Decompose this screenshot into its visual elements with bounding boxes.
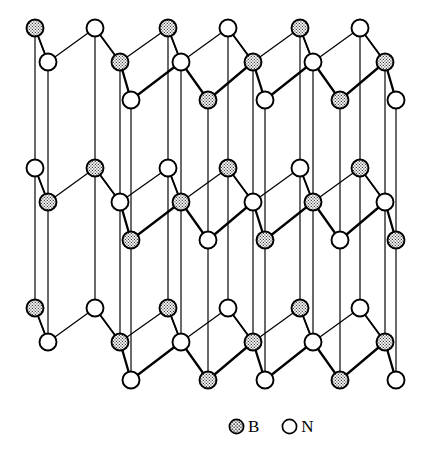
nitrogen-atom xyxy=(112,194,129,211)
legend: B N xyxy=(228,418,314,435)
nitrogen-atom xyxy=(27,160,44,177)
boron-atom xyxy=(27,300,44,317)
boron-atom xyxy=(87,160,104,177)
legend-entry-boron: B xyxy=(228,418,259,435)
boron-atom xyxy=(173,194,190,211)
boron-atom xyxy=(40,194,57,211)
boron-atom xyxy=(352,160,369,177)
boron-atom xyxy=(27,20,44,37)
boron-atom xyxy=(388,232,405,249)
boron-atom xyxy=(292,300,309,317)
crystal-structure-diagram xyxy=(0,0,426,455)
boron-atom xyxy=(377,334,394,351)
boron-atom xyxy=(292,20,309,37)
boron-atom xyxy=(332,92,349,109)
legend-entry-nitrogen: N xyxy=(281,418,313,435)
boron-atom xyxy=(160,300,177,317)
nitrogen-atom xyxy=(352,20,369,37)
nitrogen-atom xyxy=(123,92,140,109)
lattice-group xyxy=(27,20,405,389)
nitrogen-atom xyxy=(173,334,190,351)
layer-top-layer xyxy=(27,20,405,109)
nitrogen-atom xyxy=(292,160,309,177)
nitrogen-atom xyxy=(200,232,217,249)
boron-atom xyxy=(200,372,217,389)
nitrogen-atom xyxy=(220,20,237,37)
nitrogen-atom xyxy=(257,92,274,109)
nitrogen-atom xyxy=(305,54,322,71)
boron-atom xyxy=(112,334,129,351)
figure-root: B N xyxy=(0,0,426,455)
nitrogen-atom xyxy=(257,372,274,389)
boron-atom xyxy=(220,160,237,177)
boron-atom xyxy=(160,20,177,37)
nitrogen-atom xyxy=(160,160,177,177)
vertical-bonds-group xyxy=(35,28,396,380)
nitrogen-atom xyxy=(388,372,405,389)
boron-atom-icon xyxy=(228,418,245,435)
boron-atom xyxy=(257,232,274,249)
nitrogen-atom xyxy=(40,54,57,71)
layer-bottom-layer xyxy=(27,300,405,389)
legend-label-nitrogen: N xyxy=(301,418,313,435)
boron-atom xyxy=(332,372,349,389)
boron-atom xyxy=(123,232,140,249)
boron-atom xyxy=(245,54,262,71)
nitrogen-atom xyxy=(123,372,140,389)
boron-atom xyxy=(200,92,217,109)
layer-middle-layer xyxy=(27,160,405,249)
nitrogen-atom xyxy=(388,92,405,109)
nitrogen-atom xyxy=(40,334,57,351)
legend-label-boron: B xyxy=(248,418,259,435)
nitrogen-atom xyxy=(87,300,104,317)
nitrogen-atom xyxy=(305,334,322,351)
boron-atom xyxy=(305,194,322,211)
nitrogen-atom xyxy=(220,300,237,317)
boron-atom xyxy=(112,54,129,71)
nitrogen-atom xyxy=(377,194,394,211)
nitrogen-atom xyxy=(87,20,104,37)
nitrogen-atom xyxy=(332,232,349,249)
nitrogen-atom xyxy=(352,300,369,317)
nitrogen-atom-icon xyxy=(281,418,298,435)
nitrogen-atom xyxy=(173,54,190,71)
boron-atom xyxy=(245,334,262,351)
boron-atom xyxy=(377,54,394,71)
nitrogen-atom xyxy=(245,194,262,211)
